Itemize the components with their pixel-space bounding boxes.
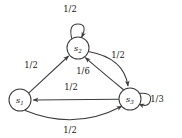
edge-label-s1-to-s2: 1/2 [24,60,37,70]
edge-label-s2-to-s3: 1/2 [111,50,124,60]
edge-label-s3-self: 1/3 [150,94,163,104]
edge-label-s3-to-s1: 1/2 [64,82,77,92]
edge-s1-to-s3 [25,106,122,119]
state-diagram: s1 s2 s3 1/2 1/2 1/2 1/6 1/2 1/2 1/3 [0,0,182,138]
edge-s3-to-s1 [33,99,119,100]
node-s1[interactable]: s1 [9,89,31,111]
edge-label-s2-self: 1/2 [63,4,76,14]
edge-s3-to-s2 [85,58,124,90]
node-s3[interactable]: s3 [119,88,141,110]
edge-label-s1-to-s3: 1/2 [63,125,76,135]
edge-label-s3-to-s2: 1/6 [76,66,89,76]
node-s2[interactable]: s2 [67,37,89,59]
